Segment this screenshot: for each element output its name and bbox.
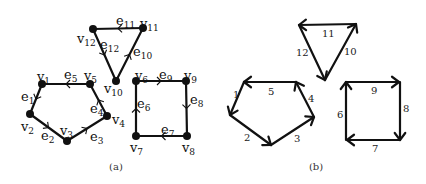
- arrow-label-4: 4: [308, 93, 314, 104]
- caption-a: (a): [109, 161, 123, 172]
- panel-a-graph: e1e2e3e4e5e6e7e8e9e10e11e12v1v2v3v4v5v6v…: [20, 13, 204, 172]
- panel-b-arrows: 123456789101112 (b): [228, 20, 409, 172]
- arrow-label-11: 11: [322, 28, 335, 39]
- vertex-label-v6: v6: [134, 68, 148, 85]
- arrows-group: 123456789101112: [228, 20, 409, 154]
- arrow-label-3: 3: [294, 133, 300, 144]
- vertex-label-v7: v7: [129, 140, 143, 157]
- vertex-label-v9: v9: [183, 68, 197, 85]
- vertex-v2: [26, 110, 34, 118]
- arrow-label-9: 9: [371, 85, 377, 96]
- vertex-label-v12: v12: [76, 31, 96, 48]
- vertex-label-v1: v1: [36, 69, 50, 86]
- vertex-label-v5: v5: [83, 68, 97, 85]
- edge-label-e3: e3: [90, 129, 104, 146]
- arrow-label-8: 8: [403, 103, 409, 114]
- vertex-v4: [103, 112, 111, 120]
- arrow-label-12: 12: [296, 47, 309, 58]
- caption-b: (b): [309, 161, 323, 172]
- vertex-label-v2: v2: [20, 119, 34, 136]
- vertex-v10: [112, 77, 120, 85]
- arrow-11: [299, 24, 356, 25]
- edge-label-e4: e4: [90, 101, 104, 118]
- vertex-label-v4: v4: [111, 112, 125, 129]
- graph-figure: e1e2e3e4e5e6e7e8e9e10e11e12v1v2v3v4v5v6v…: [0, 0, 426, 184]
- vertex-v7: [132, 132, 140, 140]
- edge-label-e11: e11: [116, 13, 135, 30]
- arrow-label-7: 7: [372, 143, 378, 154]
- arrow-label-6: 6: [337, 109, 343, 120]
- edge-label-e9: e9: [159, 67, 173, 84]
- arrow-2: [230, 115, 271, 145]
- vertex-label-v3: v3: [59, 123, 73, 140]
- arrow-label-1: 1: [233, 89, 239, 100]
- vertex-label-v8: v8: [181, 140, 195, 157]
- edge-label-e10: e10: [133, 44, 152, 61]
- edge-label-e7: e7: [161, 122, 175, 139]
- arrow-3: [271, 117, 314, 145]
- vertex-label-v11: v11: [139, 16, 159, 33]
- vertex-v8: [183, 132, 191, 140]
- edge-label-e5: e5: [64, 67, 78, 84]
- edge-label-e6: e6: [137, 96, 151, 113]
- vertex-v12: [89, 25, 97, 33]
- arrow-label-5: 5: [268, 86, 274, 97]
- arrow-label-10: 10: [344, 46, 357, 57]
- edge-label-e12: e12: [100, 37, 119, 54]
- edge-label-e8: e8: [190, 92, 204, 109]
- arrow-label-2: 2: [244, 132, 250, 143]
- edge-label-e1: e1: [21, 89, 34, 106]
